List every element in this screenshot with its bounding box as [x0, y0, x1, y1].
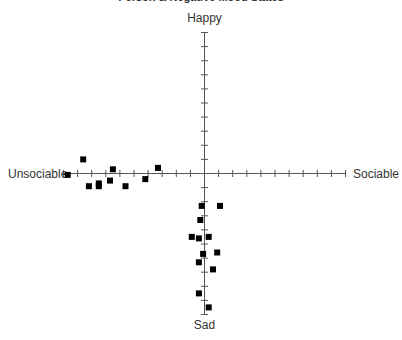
scatter-plot-area: [0, 0, 402, 340]
data-point-square: [86, 183, 92, 189]
data-point-square: [199, 203, 205, 209]
data-point-square: [217, 203, 223, 209]
data-point-square: [210, 266, 216, 272]
data-points: [65, 156, 223, 310]
data-point-square: [107, 178, 113, 184]
data-point-square: [196, 290, 202, 296]
data-point-square: [142, 176, 148, 182]
data-point-square: [123, 183, 129, 189]
data-point-square: [189, 234, 195, 240]
data-point-square: [196, 235, 202, 241]
data-point-square: [206, 234, 212, 240]
data-point-square: [96, 183, 102, 189]
data-point-square: [206, 304, 212, 310]
data-point-square: [197, 217, 203, 223]
data-point-square: [80, 156, 86, 162]
data-point-square: [110, 166, 116, 172]
data-point-square: [196, 259, 202, 265]
data-point-square: [65, 172, 71, 178]
data-point-square: [214, 250, 220, 256]
data-point-square: [200, 251, 206, 257]
data-point-square: [155, 165, 161, 171]
axes: [64, 33, 346, 315]
